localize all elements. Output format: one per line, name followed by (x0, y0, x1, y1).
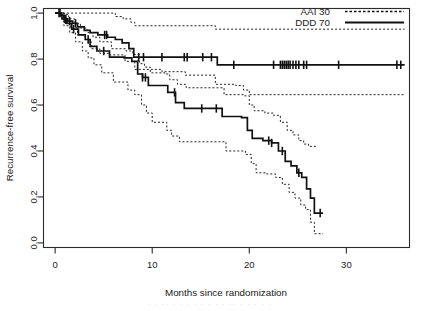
y-tick-label: 1.0 (28, 6, 39, 19)
y-tick-label: 0.4 (28, 144, 39, 157)
legend-label-ddd70: DDD 70 (295, 17, 330, 28)
x-axis-title: Months since randomization (165, 287, 287, 298)
figure-background (0, 0, 421, 311)
x-tick-label: 0 (53, 259, 58, 270)
scan-artifact-text: · · ·· · · · · · · · · ·· · · · · · (148, 301, 272, 308)
y-axis-title: Recurrence-free survival (4, 75, 15, 182)
x-tick-label: 30 (341, 259, 352, 270)
y-tick-label: 0.2 (28, 190, 39, 203)
kaplan-meier-figure: 0102030 0.00.20.40.60.81.0 Months since … (0, 0, 421, 311)
y-tick-label: 0.8 (28, 52, 39, 65)
x-tick-label: 20 (244, 259, 255, 270)
survival-plot-canvas: 0102030 0.00.20.40.60.81.0 Months since … (0, 0, 421, 311)
y-tick-label: 0.0 (28, 236, 39, 249)
y-tick-label: 0.6 (28, 98, 39, 111)
legend-label-aai30: AAI 30 (301, 6, 331, 17)
x-tick-label: 10 (147, 259, 158, 270)
